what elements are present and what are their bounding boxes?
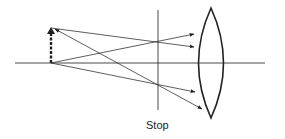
ray-top-to-lens-bottom	[55, 29, 202, 109]
optics-diagram	[0, 0, 285, 139]
object-arrow	[47, 27, 55, 63]
ray-base-to-lens-lower	[51, 63, 195, 92]
rays	[51, 28, 202, 109]
ray-top-to-lens-upper	[51, 28, 194, 47]
stop-label: Stop	[146, 119, 169, 131]
